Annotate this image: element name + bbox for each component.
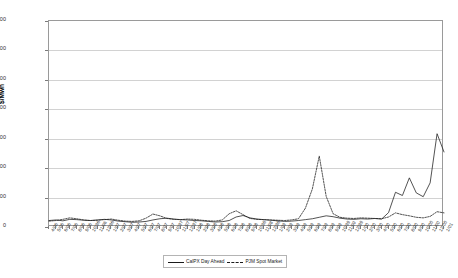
- x-tick-mark: [214, 226, 215, 229]
- x-tick-mark: [207, 226, 208, 229]
- series-layer: [49, 21, 444, 227]
- x-tick-mark: [318, 226, 319, 229]
- x-tick-mark: [408, 226, 409, 229]
- y-tick-mark: [45, 109, 48, 110]
- x-tick-mark: [138, 226, 139, 229]
- legend-swatch-dashed-icon: [227, 260, 243, 264]
- y-tick-label: 100: [0, 194, 6, 199]
- x-tick-mark: [304, 226, 305, 229]
- y-tick-mark: [45, 80, 48, 81]
- series-line-pjm-spot-market: [49, 156, 444, 221]
- y-tick-label: 300: [0, 135, 6, 140]
- y-tick-label: 0: [0, 223, 6, 228]
- x-tick-mark: [110, 226, 111, 229]
- x-tick-mark: [436, 226, 437, 229]
- y-tick-label: 600: [0, 46, 6, 51]
- x-tick-mark: [401, 226, 402, 229]
- legend-item-calpx-day-ahead: CalPX Day Ahead: [168, 259, 224, 264]
- x-tick-mark: [311, 226, 312, 229]
- plot-area: [48, 20, 443, 226]
- legend-swatch-solid-icon: [168, 260, 184, 264]
- series-line-calpx-day-ahead: [49, 134, 444, 223]
- x-tick-mark: [117, 226, 118, 229]
- x-tick-mark: [242, 226, 243, 229]
- chart-legend: CalPX Day Ahead PJM Spot Market: [163, 255, 287, 268]
- y-tick-mark: [45, 168, 48, 169]
- y-axis-title: $/Mwh: [0, 84, 5, 104]
- x-tick-mark: [339, 226, 340, 229]
- x-tick-mark: [415, 226, 416, 229]
- legend-item-pjm-spot-market: PJM Spot Market: [227, 259, 282, 264]
- y-tick-mark: [45, 198, 48, 199]
- y-tick-mark: [45, 21, 48, 22]
- x-tick-mark: [124, 226, 125, 229]
- y-tick-label: 700: [0, 17, 6, 22]
- y-tick-label: 200: [0, 164, 6, 169]
- y-tick-mark: [45, 139, 48, 140]
- y-tick-mark: [45, 50, 48, 51]
- price-chart: $/Mwh 0100200300400500600700 4/965/966/9…: [0, 0, 458, 278]
- x-tick-mark: [325, 226, 326, 229]
- y-tick-label: 500: [0, 76, 6, 81]
- x-tick-mark: [422, 226, 423, 229]
- x-tick-mark: [131, 226, 132, 229]
- x-tick-mark: [235, 226, 236, 229]
- x-tick-mark: [228, 226, 229, 229]
- x-tick-mark: [221, 226, 222, 229]
- x-tick-mark: [429, 226, 430, 229]
- x-tick-mark: [48, 226, 49, 229]
- x-tick-mark: [443, 226, 444, 229]
- legend-label-pjm-spot-market: PJM Spot Market: [245, 259, 282, 264]
- y-tick-label: 400: [0, 105, 6, 110]
- x-tick-mark: [332, 226, 333, 229]
- x-tick-mark: [145, 226, 146, 229]
- legend-label-calpx-day-ahead: CalPX Day Ahead: [186, 259, 224, 264]
